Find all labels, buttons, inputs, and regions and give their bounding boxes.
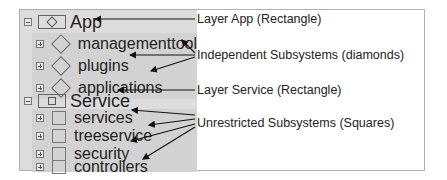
tree-item-controllers[interactable]: controllers [32, 162, 197, 172]
tree-item-plugins[interactable]: plugins [32, 55, 197, 77]
annotation-layer-app: Layer App (Rectangle) [197, 12, 321, 26]
layer-rectangle-icon [38, 15, 66, 29]
expand-icon[interactable] [36, 150, 44, 158]
expand-icon[interactable] [36, 62, 44, 70]
annotation-layer-service: Layer Service (Rectangle) [197, 83, 342, 97]
tree-item-app[interactable]: App [20, 11, 197, 33]
diamond-icon [46, 16, 57, 27]
square-icon [52, 111, 66, 125]
tree-item-services[interactable]: services [32, 109, 197, 127]
expand-icon[interactable] [36, 163, 44, 171]
diamond-icon [51, 34, 71, 54]
collapse-icon[interactable] [24, 97, 32, 105]
tree-item-label: services [74, 109, 133, 127]
square-icon [52, 129, 66, 143]
tree-item-treeservice[interactable]: treeservice [32, 127, 197, 145]
tree-item-label: treeservice [74, 127, 152, 145]
tree-item-label: managementtool [78, 35, 197, 53]
tree-item-managementtool[interactable]: managementtool [32, 33, 197, 55]
annotation-unrestricted-subsystems: Unrestricted Subsystems (Squares) [197, 116, 394, 130]
layer-rectangle-icon [38, 94, 66, 108]
annotation-independent-subsystems: Independent Subsystems (diamonds) [197, 48, 404, 62]
square-icon [52, 147, 66, 161]
diamond-icon [51, 56, 71, 76]
collapse-icon[interactable] [24, 18, 32, 26]
square-icon [48, 97, 56, 105]
tree-item-label: plugins [78, 57, 129, 75]
tree-panel: App managementtool plugins applications … [20, 10, 197, 170]
expand-icon[interactable] [36, 40, 44, 48]
tree-item-label: App [70, 12, 102, 33]
tree-item-label: controllers [74, 158, 148, 176]
expand-icon[interactable] [36, 114, 44, 122]
square-icon [52, 160, 66, 174]
expand-icon[interactable] [36, 132, 44, 140]
